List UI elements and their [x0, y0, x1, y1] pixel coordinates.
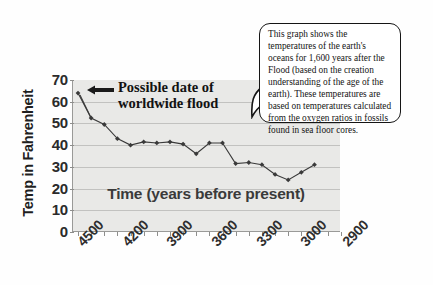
y-tick-mark-30 — [70, 167, 74, 168]
y-tick-label-60: 60 — [36, 93, 68, 110]
y-tick-mark-60 — [70, 102, 74, 103]
x-tick-mark-16 — [288, 232, 289, 236]
y-tick-label-40: 40 — [36, 136, 68, 153]
y-tick-mark-0 — [70, 232, 74, 233]
data-point-3460 — [246, 160, 251, 165]
y-tick-label-0: 0 — [36, 223, 68, 240]
x-tick-mark-2 — [104, 232, 105, 236]
x-tick-mark-13 — [249, 232, 250, 236]
data-point-4100 — [141, 139, 146, 144]
data-point-3060 — [312, 162, 317, 167]
flood-annotation-line1: Possible date of — [118, 79, 268, 95]
x-tick-mark-6 — [157, 232, 158, 236]
y-tick-mark-10 — [70, 210, 74, 211]
x-tick-mark-9 — [196, 232, 197, 236]
data-point-3940 — [168, 139, 173, 144]
y-tick-mark-50 — [70, 123, 74, 124]
callout-box: This graph shows the temperatures of the… — [259, 23, 401, 123]
data-point-4180 — [128, 143, 133, 148]
x-tick-mark-19 — [328, 232, 329, 236]
y-axis-ticks: 706050403020100 — [36, 71, 68, 241]
flood-annotation: Possible date of worldwide flood — [118, 79, 268, 111]
data-point-4500 — [76, 91, 81, 96]
callout-text: This graph shows the temperatures of the… — [268, 29, 393, 136]
x-tick-label-2900: 2900 — [339, 217, 371, 249]
annotation-leader-line — [80, 95, 91, 118]
y-tick-mark-40 — [70, 145, 74, 146]
y-tick-label-30: 30 — [36, 158, 68, 175]
left-arrow-icon — [85, 84, 115, 96]
callout-body: This graph shows the temperatures of the… — [259, 23, 401, 123]
y-tick-label-70: 70 — [36, 71, 68, 88]
x-tick-mark-3 — [117, 232, 118, 236]
data-point-3220 — [286, 177, 291, 182]
chart-figure: Time (years before present) 706050403020… — [0, 0, 433, 285]
y-tick-label-50: 50 — [36, 114, 68, 131]
y-tick-label-20: 20 — [36, 180, 68, 197]
y-tick-mark-70 — [70, 80, 74, 81]
flood-annotation-line2: worldwide flood — [118, 95, 268, 111]
y-tick-label-10: 10 — [36, 201, 68, 218]
y-axis-title: Temp in Fahrenheit — [20, 78, 36, 228]
y-tick-mark-20 — [70, 189, 74, 190]
data-point-3140 — [299, 170, 304, 175]
data-point-4020 — [154, 141, 159, 146]
